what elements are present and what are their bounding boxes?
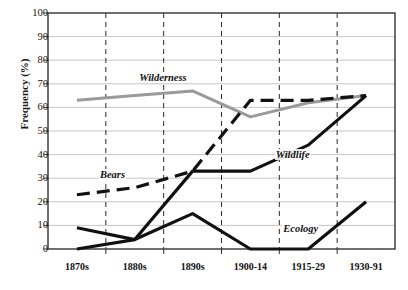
chart-figure: Frequency (%) 1009080706050403020100 187… <box>0 0 408 290</box>
plot-canvas <box>0 0 408 290</box>
x-axis-tick-label: 1915-29 <box>292 261 325 272</box>
y-axis-tick-labels: 1009080706050403020100 <box>20 0 48 290</box>
y-axis-tick-label: 20 <box>22 197 48 207</box>
x-axis-tick-label: 1880s <box>123 261 147 272</box>
series-label-wildlife: Wildlife <box>275 149 311 160</box>
series-label-bears: Bears <box>99 169 126 180</box>
y-axis-tick-label: 0 <box>22 244 48 254</box>
y-axis-tick-label: 40 <box>22 150 48 160</box>
y-axis-tick-label: 10 <box>22 220 48 230</box>
x-axis-tick-label: 1900-14 <box>234 261 267 272</box>
x-axis-tick-label: 1870s <box>65 261 89 272</box>
y-axis-tick-label: 90 <box>22 32 48 42</box>
y-axis-tick-label: 50 <box>22 126 48 136</box>
y-axis-tick-label: 60 <box>22 102 48 112</box>
series-label-ecology: Ecology <box>282 223 319 234</box>
x-axis-tick-label: 1930-91 <box>349 261 382 272</box>
series-label-wilderness: Wilderness <box>138 72 187 83</box>
y-axis-tick-label: 70 <box>22 79 48 89</box>
y-axis-tick-label: 30 <box>22 173 48 183</box>
x-axis-tick-label: 1890s <box>181 261 205 272</box>
y-axis-tick-label: 80 <box>22 55 48 65</box>
y-axis-tick-label: 100 <box>22 8 48 18</box>
